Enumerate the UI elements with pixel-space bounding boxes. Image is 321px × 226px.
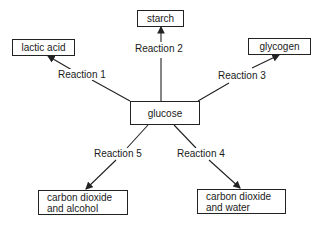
node-label: lactic acid xyxy=(22,42,66,53)
node-co2-water: carbon dioxide and water xyxy=(197,189,286,214)
node-label: glucose xyxy=(148,108,182,119)
label-reaction-3: Reaction 3 xyxy=(217,70,267,81)
arrow-reaction-4 xyxy=(209,160,240,188)
node-label: starch xyxy=(147,13,174,24)
label-reaction-5: Reaction 5 xyxy=(93,148,143,159)
arrow-reaction-5 xyxy=(86,160,116,189)
arrow-reaction-4-upper xyxy=(174,125,196,148)
label-reaction-4: Reaction 4 xyxy=(176,148,226,159)
node-co2-alcohol: carbon dioxide and alcohol xyxy=(38,190,128,215)
label-reaction-1: Reaction 1 xyxy=(57,69,107,80)
node-label: glycogen xyxy=(259,41,299,52)
node-label-line-1: carbon dioxide xyxy=(47,192,112,203)
arrow-reaction-1 xyxy=(48,56,72,70)
arrow-reaction-3 xyxy=(252,55,279,68)
node-label-line-2: and alcohol xyxy=(47,203,98,214)
arrow-reaction-3-lower xyxy=(198,83,229,101)
node-glycogen: glycogen xyxy=(248,38,311,55)
arrow-reaction-1-lower xyxy=(92,80,130,101)
node-label-line-1: carbon dioxide xyxy=(206,191,271,202)
node-lactic-acid: lactic acid xyxy=(12,39,75,56)
node-label-line-2: and water xyxy=(206,202,250,213)
label-reaction-2: Reaction 2 xyxy=(134,43,184,54)
node-glucose: glucose xyxy=(130,101,200,125)
arrow-reaction-5-upper xyxy=(127,125,148,148)
node-starch: starch xyxy=(137,10,184,27)
